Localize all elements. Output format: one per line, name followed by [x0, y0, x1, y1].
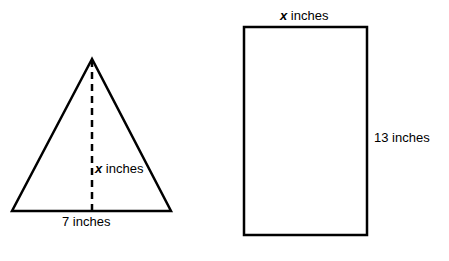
triangle-height-label: x inches	[95, 162, 143, 175]
triangle-base-label: 7 inches	[62, 215, 110, 228]
rectangle-shape	[244, 27, 367, 235]
rectangle-width-unit: inches	[287, 8, 328, 23]
rectangle-height-label: 13 inches	[374, 131, 430, 144]
triangle-height-unit: inches	[102, 161, 143, 176]
rectangle-width-label: x inches	[280, 9, 328, 22]
